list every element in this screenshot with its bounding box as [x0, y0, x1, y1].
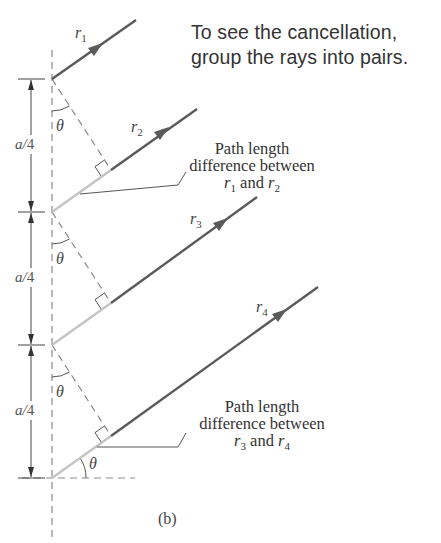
- path-difference-note-r1-r2: Path length difference between r1 and r2: [172, 140, 332, 193]
- spacing-n: 4: [27, 136, 35, 152]
- theta-arcs: [52, 106, 86, 478]
- note-line-2: difference between: [172, 157, 332, 174]
- spacing-a: a: [15, 136, 23, 152]
- right-angle-markers: [95, 160, 111, 443]
- spacing-a: a: [15, 269, 23, 285]
- spacing-label-2: a/4: [15, 268, 34, 287]
- note-line-2: difference between: [182, 415, 342, 432]
- spacing-n: 4: [27, 402, 35, 418]
- ray-label-r3: r3: [190, 210, 202, 228]
- ray-label-r1: r1: [75, 24, 87, 42]
- caption: To see the cancellation, group the rays …: [191, 20, 441, 70]
- spacing-label-1: a/4: [15, 135, 34, 154]
- ray-r3: [52, 197, 257, 345]
- caption-line-2: group the rays into pairs.: [191, 45, 441, 70]
- ray-subscript: 2: [274, 182, 280, 194]
- note-line-3: r3 and r4: [182, 432, 342, 451]
- ray-label-r2: r2: [131, 118, 143, 136]
- ray-subscript: 3: [240, 440, 246, 452]
- theta-label-bottom: θ: [89, 455, 97, 473]
- ray-subscript: 1: [81, 32, 87, 44]
- caption-line-1: To see the cancellation,: [191, 20, 441, 45]
- theta-label-1: θ: [56, 117, 64, 135]
- spacing-n: 4: [27, 269, 35, 285]
- note-line-1: Path length: [182, 398, 342, 415]
- panel-label: (b): [158, 510, 177, 528]
- note-line-1: Path length: [172, 140, 332, 157]
- arrowhead-icon: [88, 43, 103, 56]
- ray-subscript: 4: [284, 440, 290, 452]
- ray-subscript: 4: [262, 306, 268, 318]
- leader-lines: [80, 172, 186, 447]
- arrowhead-icon: [272, 309, 287, 322]
- spacing-a: a: [15, 402, 23, 418]
- ray-label-r4: r4: [256, 298, 268, 316]
- spacing-label-3: a/4: [15, 401, 34, 420]
- ray-subscript: 3: [196, 218, 202, 230]
- arrowhead-icon: [213, 218, 228, 231]
- note-line-3: r1 and r2: [172, 174, 332, 193]
- path-difference-note-r3-r4: Path length difference between r3 and r4: [182, 398, 342, 451]
- ray-r1: [52, 20, 136, 79]
- theta-label-3: θ: [56, 383, 64, 401]
- and-text: and: [246, 431, 278, 450]
- theta-label-2: θ: [56, 250, 64, 268]
- diffraction-diagram: [0, 0, 441, 543]
- and-text: and: [236, 173, 268, 192]
- ray-subscript: 1: [230, 182, 236, 194]
- ray-subscript: 2: [137, 126, 143, 138]
